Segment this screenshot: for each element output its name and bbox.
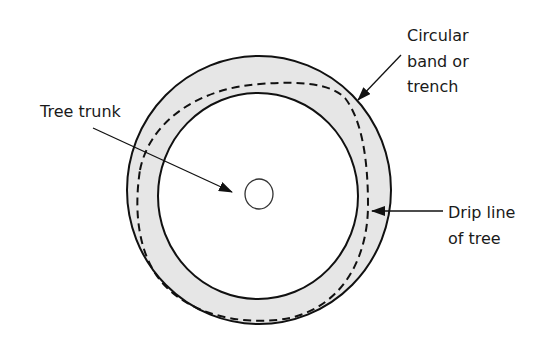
tree-trunk-circle [245,179,273,209]
label-band-line-2: band or [407,52,469,71]
diagram-canvas: Tree trunk Circular band or trench Drip … [0,0,552,357]
label-band-line-3: trench [407,77,458,96]
label-drip-line-1: Drip line [448,203,515,222]
label-tree-trunk: Tree trunk [39,102,122,121]
label-drip-line: Drip line of tree [448,203,515,248]
label-circular-band: Circular band or trench [407,26,469,96]
band-arrow [358,55,401,100]
label-band-line-1: Circular [407,26,469,45]
label-drip-line-2: of tree [448,229,501,248]
